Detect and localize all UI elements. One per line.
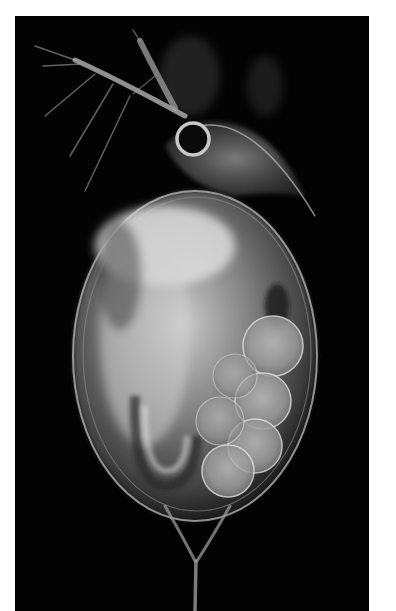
egg xyxy=(213,354,257,398)
daphnia-illustration xyxy=(15,16,369,611)
micrograph-photo xyxy=(15,16,369,611)
background-haze xyxy=(160,36,283,116)
compound-eye xyxy=(177,123,209,155)
image-frame xyxy=(0,0,396,611)
egg xyxy=(202,445,254,497)
egg xyxy=(196,397,244,445)
antennae xyxy=(35,30,185,191)
